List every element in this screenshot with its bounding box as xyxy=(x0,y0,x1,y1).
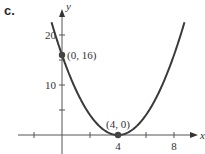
x-axis-label: x xyxy=(199,129,205,141)
point-marker xyxy=(115,132,121,138)
y-axis-label: y xyxy=(65,0,71,12)
parabola-chart: xy481020(0, 16)(4, 0) xyxy=(0,0,205,154)
x-axis-arrow-icon xyxy=(190,132,198,138)
x-tick-label: 4 xyxy=(115,140,121,152)
y-tick-label: 10 xyxy=(45,79,57,91)
x-tick-label: 8 xyxy=(171,140,177,152)
point-label: (0, 16) xyxy=(67,49,97,62)
point-label: (4, 0) xyxy=(106,118,130,131)
point-marker xyxy=(59,52,65,58)
y-axis-arrow-icon xyxy=(59,9,65,17)
